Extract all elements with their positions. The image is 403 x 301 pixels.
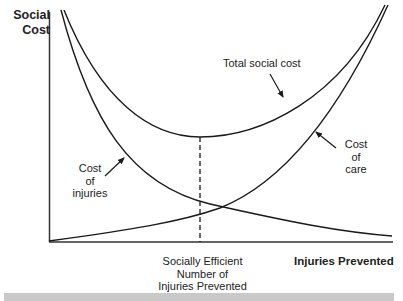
efficient-label-line3: Injuries Prevented	[150, 280, 255, 293]
efficient-label-line2: Number of	[150, 268, 255, 281]
y-axis-label-line2: Cost	[4, 23, 50, 38]
total-social-cost-curve	[64, 5, 385, 137]
care-arrow	[316, 132, 336, 148]
total-cost-arrow	[270, 74, 283, 97]
injuries-label-line3: injuries	[70, 187, 110, 200]
total-social-cost-label: Total social cost	[223, 57, 301, 70]
efficient-label-line1: Socially Efficient	[150, 255, 255, 268]
cost-of-injuries-label: Cost of injuries	[70, 162, 110, 200]
x-axis-label: Injuries Prevented	[294, 255, 394, 268]
y-axis-label-line1: Social	[4, 8, 50, 23]
injuries-label-line1: Cost	[70, 162, 110, 175]
y-axis-label: Social Cost	[4, 8, 50, 38]
care-label-line1: Cost	[338, 138, 374, 151]
injuries-label-line2: of	[70, 175, 110, 188]
cost-of-injuries-curve	[61, 10, 392, 236]
care-label-line2: of	[338, 151, 374, 164]
efficient-label: Socially Efficient Number of Injuries Pr…	[150, 255, 255, 293]
footer-bar	[4, 293, 394, 301]
care-label-line3: care	[338, 163, 374, 176]
cost-of-care-label: Cost of care	[338, 138, 374, 176]
